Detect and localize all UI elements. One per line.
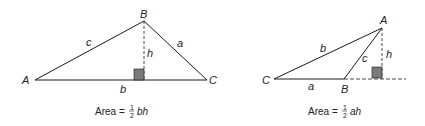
fraction-num-2: 1 [343,104,347,111]
triangle-area-diagram: A B C c a h b Area = 1 2 bh C B A b c h … [0,0,425,126]
fraction-den-2: 2 [343,112,347,119]
formula-vars-2: ah [350,106,362,117]
vertex-b-label: B [140,8,147,20]
figure-acute: A B C c a h b Area = 1 2 bh [21,8,217,119]
right-angle-marker [372,67,382,78]
triangle-abc [35,21,207,80]
side-c-label: c [86,36,92,48]
right-angle-marker [134,69,144,80]
vertex-a-label: A [379,14,387,26]
side-a-label: a [177,37,183,49]
altitude-h-label: h [147,47,153,59]
side-b-label: b [120,83,126,95]
figure-obtuse: C B A b c h a Area = 1 2 ah [262,14,406,119]
area-formula-2: Area = [308,106,338,117]
side-b-label: b [320,42,326,54]
vertex-c-label: C [262,74,270,86]
area-formula-1: Area = [95,106,125,117]
formula-vars-1: bh [137,106,149,117]
side-a-label: a [308,80,314,92]
vertex-c-label: C [209,74,217,86]
vertex-b-label: B [341,83,348,95]
altitude-h-label: h [386,48,392,60]
side-c-label: c [362,52,368,64]
fraction-num-1: 1 [130,104,134,111]
fraction-den-1: 2 [130,112,134,119]
vertex-a-label: A [21,74,29,86]
